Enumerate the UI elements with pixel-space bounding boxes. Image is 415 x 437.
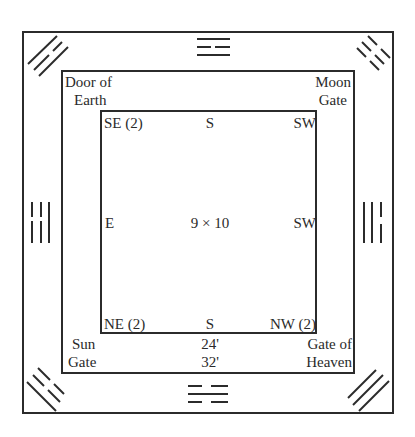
gate-label-line: Gate	[315, 91, 351, 109]
trigram-bottom-right-icon	[348, 370, 389, 411]
inner-top-left-label: SE (2)	[104, 114, 143, 132]
dimension-outer-width: 32'	[190, 353, 230, 371]
inner-top-center-label: S	[190, 114, 230, 132]
gate-label-line: Gate	[68, 353, 96, 371]
trigram-bottom-icon	[188, 386, 228, 402]
inner-bottom-left-label: NE (2)	[104, 315, 145, 333]
trigram-top-right-icon	[357, 36, 390, 70]
inner-bottom-center-label: S	[190, 315, 230, 333]
trigram-bottom-left-icon	[27, 368, 64, 411]
inner-middle-right-label: SW	[294, 214, 317, 232]
gate-label-line: Earth	[65, 91, 112, 109]
inner-top-right-label: SW	[294, 114, 317, 132]
gate-label-line: Sun	[68, 335, 96, 353]
inner-bottom-right-label: NW (2)	[270, 315, 316, 333]
dimension-inner-width: 24'	[190, 335, 230, 353]
gate-sun-gate: Sun Gate	[68, 335, 96, 371]
inner-middle-left-label: E	[105, 214, 114, 232]
trigram-left-icon	[32, 202, 49, 243]
trigram-top-icon	[197, 39, 230, 55]
gate-label-line: Door of	[65, 73, 112, 91]
gate-label-line: Gate of	[306, 335, 352, 353]
gate-label-line: Moon	[315, 73, 351, 91]
gate-of-heaven: Gate of Heaven	[306, 335, 352, 371]
inner-center-label: 9 × 10	[170, 214, 250, 232]
gate-door-of-earth: Door of Earth	[65, 73, 112, 109]
gate-label-line: Heaven	[306, 353, 352, 371]
trigram-top-left-icon	[28, 36, 68, 76]
trigram-right-icon	[364, 202, 381, 243]
gate-moon-gate: Moon Gate	[315, 73, 351, 109]
